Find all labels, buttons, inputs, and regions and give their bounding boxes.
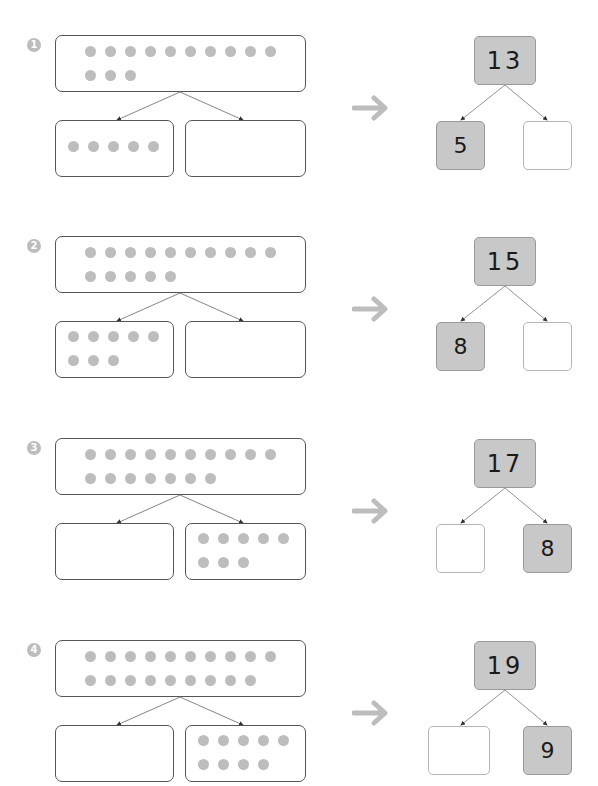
counting-dot (278, 533, 289, 544)
left-part-dots (68, 331, 168, 366)
counting-dot (125, 70, 136, 81)
counting-dot (68, 355, 79, 366)
left-part-box[interactable] (55, 120, 174, 177)
counting-dot (238, 533, 249, 544)
counting-dot (218, 759, 229, 770)
counting-dot (105, 449, 116, 460)
counting-dot (238, 557, 249, 568)
counting-dot (85, 651, 96, 662)
counting-dot (245, 46, 256, 57)
counting-dot (218, 735, 229, 746)
right-arrow-icon (352, 700, 390, 726)
counting-dot (125, 449, 136, 460)
counting-dot (68, 141, 79, 152)
counting-dot (198, 533, 209, 544)
counting-dot (85, 70, 96, 81)
counting-dot (145, 247, 156, 258)
right-part-box[interactable] (185, 120, 306, 177)
counting-dot (245, 651, 256, 662)
counting-dot (205, 449, 216, 460)
counting-dot (265, 247, 276, 258)
tree-right-answer-box[interactable] (523, 322, 572, 371)
counting-dot (245, 675, 256, 686)
left-part-dots (68, 141, 168, 152)
tree-whole-number: 13 (474, 36, 536, 85)
tree-right-answer-box[interactable] (523, 121, 572, 170)
counting-dot (128, 141, 139, 152)
right-arrow-icon (352, 498, 390, 524)
counting-dot (85, 449, 96, 460)
whole-dots (85, 651, 285, 686)
counting-dot (185, 473, 196, 484)
counting-dot (265, 651, 276, 662)
tree-whole-number: 17 (474, 439, 536, 488)
whole-dots-box (55, 438, 306, 495)
counting-dot (125, 271, 136, 282)
counting-dot (245, 247, 256, 258)
counting-dot (258, 533, 269, 544)
whole-dots-box (55, 640, 306, 697)
counting-dot (165, 449, 176, 460)
counting-dot (125, 473, 136, 484)
counting-dot (125, 675, 136, 686)
counting-dot (198, 557, 209, 568)
counting-dot (105, 247, 116, 258)
problem-number-badge: 4 (27, 643, 41, 657)
counting-dot (85, 247, 96, 258)
counting-dot (165, 651, 176, 662)
counting-dot (205, 46, 216, 57)
tree-right-part: 8 (523, 524, 572, 573)
tree-left-answer-box[interactable] (436, 524, 485, 573)
problem-2: 2 15 8 (0, 236, 598, 436)
right-part-box[interactable] (185, 523, 306, 580)
left-part-box[interactable] (55, 725, 174, 782)
tree-left-part: 8 (436, 322, 485, 371)
counting-dot (225, 247, 236, 258)
tree-right-part: 9 (523, 726, 572, 775)
whole-dots (85, 46, 285, 81)
counting-dot (265, 46, 276, 57)
counting-dot (85, 46, 96, 57)
counting-dot (185, 675, 196, 686)
counting-dot (105, 70, 116, 81)
right-part-box[interactable] (185, 321, 306, 378)
counting-dot (148, 141, 159, 152)
counting-dot (185, 449, 196, 460)
counting-dot (205, 651, 216, 662)
counting-dot (165, 247, 176, 258)
counting-dot (68, 331, 79, 342)
counting-dot (165, 271, 176, 282)
counting-dot (145, 473, 156, 484)
counting-dot (145, 449, 156, 460)
counting-dot (165, 675, 176, 686)
counting-dot (145, 675, 156, 686)
counting-dot (108, 331, 119, 342)
counting-dot (88, 331, 99, 342)
problem-4: 4 19 9 (0, 640, 598, 786)
counting-dot (205, 675, 216, 686)
counting-dot (278, 735, 289, 746)
counting-dot (185, 46, 196, 57)
left-part-box[interactable] (55, 523, 174, 580)
problem-number-badge: 1 (27, 38, 41, 52)
counting-dot (105, 46, 116, 57)
counting-dot (105, 651, 116, 662)
counting-dot (225, 46, 236, 57)
counting-dot (125, 46, 136, 57)
right-part-box[interactable] (185, 725, 306, 782)
counting-dot (145, 46, 156, 57)
counting-dot (148, 331, 159, 342)
counting-dot (108, 355, 119, 366)
counting-dot (265, 449, 276, 460)
counting-dot (125, 651, 136, 662)
whole-dots-box (55, 35, 306, 92)
counting-dot (88, 355, 99, 366)
left-part-box[interactable] (55, 321, 174, 378)
tree-left-answer-box[interactable] (428, 726, 490, 775)
whole-dots (85, 247, 285, 282)
counting-dot (225, 449, 236, 460)
whole-dots (85, 449, 285, 484)
counting-dot (238, 759, 249, 770)
counting-dot (198, 759, 209, 770)
counting-dot (145, 271, 156, 282)
